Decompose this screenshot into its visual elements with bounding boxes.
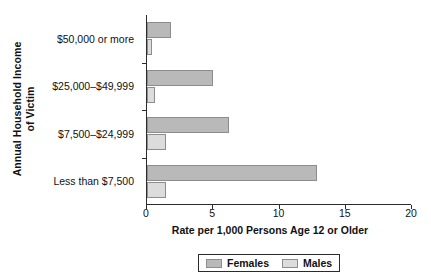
x-axis-tick-label: 15 xyxy=(339,207,351,219)
y-axis-tick-label: $50,000 or more xyxy=(57,33,134,45)
x-axis-tick-label: 0 xyxy=(143,207,149,219)
bar-males xyxy=(147,39,152,55)
y-axis-tick-label: $7,500–$24,999 xyxy=(58,128,134,140)
bar-females xyxy=(147,165,317,181)
legend-entry-females: Females xyxy=(206,257,269,269)
x-axis-tick-label: 20 xyxy=(405,207,417,219)
legend-label: Males xyxy=(303,257,332,269)
y-axis-tick-mark xyxy=(142,110,146,111)
bar-males xyxy=(147,87,155,103)
y-axis-tick-mark xyxy=(142,158,146,159)
y-axis-tick-label: $25,000–$49,999 xyxy=(52,80,134,92)
y-axis-tick-label: Less than $7,500 xyxy=(53,175,134,187)
y-axis-tick-labels: $50,000 or more$25,000–$49,999$7,500–$24… xyxy=(44,15,138,205)
bar-chart: Annual Household Income of Victim $50,00… xyxy=(0,0,431,280)
legend-entry-males: Males xyxy=(282,257,332,269)
bar-females xyxy=(147,22,171,38)
y-axis-tick-mark xyxy=(142,63,146,64)
x-axis-tick-label: 10 xyxy=(273,207,285,219)
chart-legend: FemalesMales xyxy=(198,254,340,272)
x-axis-title: Rate per 1,000 Persons Age 12 or Older xyxy=(120,224,420,236)
y-axis-title-line-2: of Victim xyxy=(24,42,37,177)
plot-area xyxy=(146,15,411,205)
legend-swatch-females xyxy=(206,259,222,268)
y-axis-title-line-1: Annual Household Income xyxy=(11,42,24,177)
bar-males xyxy=(147,134,166,150)
x-axis-tick-label: 5 xyxy=(209,207,215,219)
bar-females xyxy=(147,70,213,86)
bar-females xyxy=(147,117,229,133)
y-axis-title: Annual Household Income of Victim xyxy=(2,14,46,204)
x-axis-tick-labels: 05101520 xyxy=(146,207,411,221)
bar-males xyxy=(147,182,166,198)
legend-swatch-males xyxy=(282,259,298,268)
legend-label: Females xyxy=(227,257,269,269)
